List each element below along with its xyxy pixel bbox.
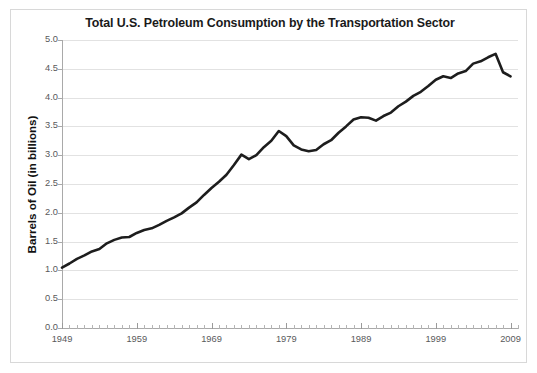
- x-tick-minor: [398, 325, 399, 329]
- x-tick-label: 1979: [266, 334, 306, 344]
- x-tick-label: 1949: [42, 334, 82, 344]
- y-tick-label: 0.5: [32, 293, 58, 303]
- x-tick-minor: [167, 325, 168, 329]
- y-gridline: [62, 242, 518, 243]
- x-tick-minor: [249, 325, 250, 329]
- y-tick-mark: [58, 184, 62, 185]
- y-tick-label: 5.0: [32, 34, 58, 44]
- x-tick-minor: [144, 325, 145, 329]
- x-tick-minor: [189, 325, 190, 329]
- x-tick-minor: [92, 325, 93, 329]
- x-tick-minor: [473, 325, 474, 329]
- y-gridline: [62, 98, 518, 99]
- x-tick-minor: [428, 325, 429, 329]
- x-tick-major: [137, 323, 138, 329]
- x-tick-minor: [174, 325, 175, 329]
- x-tick-minor: [159, 325, 160, 329]
- x-tick-minor: [316, 325, 317, 329]
- y-tick-label: 3.5: [32, 120, 58, 130]
- y-tick-label: 2.5: [32, 178, 58, 188]
- x-tick-minor: [339, 325, 340, 329]
- y-tick-label: 2.0: [32, 207, 58, 217]
- y-tick-label: 0.0: [32, 322, 58, 332]
- y-tick-label: 1.5: [32, 236, 58, 246]
- x-tick-minor: [413, 325, 414, 329]
- x-tick-minor: [488, 325, 489, 329]
- x-tick-major: [511, 323, 512, 329]
- x-tick-minor: [466, 325, 467, 329]
- x-tick-minor: [129, 325, 130, 329]
- y-gridline: [62, 184, 518, 185]
- y-tick-mark: [58, 69, 62, 70]
- y-tick-mark: [58, 242, 62, 243]
- x-tick-minor: [383, 325, 384, 329]
- x-tick-minor: [368, 325, 369, 329]
- x-tick-minor: [69, 325, 70, 329]
- y-axis-tick-labels: 0.00.51.01.52.02.53.03.54.04.55.0: [30, 0, 58, 373]
- x-tick-minor: [309, 325, 310, 329]
- x-tick-minor: [458, 325, 459, 329]
- x-tick-label: 1989: [341, 334, 381, 344]
- y-gridline: [62, 69, 518, 70]
- x-tick-label: 1999: [416, 334, 456, 344]
- x-tick-minor: [107, 325, 108, 329]
- y-tick-mark: [58, 270, 62, 271]
- x-tick-minor: [182, 325, 183, 329]
- y-tick-label: 4.0: [32, 92, 58, 102]
- y-tick-mark: [58, 40, 62, 41]
- x-tick-major: [212, 323, 213, 329]
- y-tick-mark: [58, 155, 62, 156]
- y-tick-mark: [58, 299, 62, 300]
- y-tick-mark: [58, 126, 62, 127]
- x-tick-minor: [451, 325, 452, 329]
- x-tick-minor: [99, 325, 100, 329]
- x-tick-minor: [324, 325, 325, 329]
- y-gridline: [62, 40, 518, 41]
- x-tick-minor: [376, 325, 377, 329]
- x-tick-minor: [204, 325, 205, 329]
- x-tick-major: [436, 323, 437, 329]
- x-tick-minor: [354, 325, 355, 329]
- x-tick-minor: [503, 325, 504, 329]
- x-tick-minor: [331, 325, 332, 329]
- x-tick-minor: [443, 325, 444, 329]
- x-tick-minor: [152, 325, 153, 329]
- y-gridline: [62, 126, 518, 127]
- chart-figure: Total U.S. Petroleum Consumption by the …: [0, 0, 537, 373]
- x-tick-minor: [234, 325, 235, 329]
- x-tick-minor: [301, 325, 302, 329]
- y-gridline: [62, 270, 518, 271]
- x-tick-label: 1959: [117, 334, 157, 344]
- x-tick-label: 1969: [192, 334, 232, 344]
- x-tick-minor: [77, 325, 78, 329]
- x-tick-minor: [219, 325, 220, 329]
- x-tick-minor: [84, 325, 85, 329]
- x-tick-minor: [406, 325, 407, 329]
- x-tick-minor: [271, 325, 272, 329]
- y-gridline: [62, 213, 518, 214]
- x-tick-minor: [421, 325, 422, 329]
- y-tick-label: 4.5: [32, 63, 58, 73]
- y-gridline: [62, 299, 518, 300]
- y-tick-mark: [58, 328, 62, 329]
- x-tick-minor: [279, 325, 280, 329]
- y-axis-line: [62, 40, 63, 329]
- x-tick-minor: [391, 325, 392, 329]
- y-tick-label: 1.0: [32, 264, 58, 274]
- y-tick-mark: [58, 213, 62, 214]
- y-gridline: [62, 155, 518, 156]
- y-tick-mark: [58, 98, 62, 99]
- x-tick-major: [286, 323, 287, 329]
- x-tick-major: [62, 323, 63, 329]
- x-tick-minor: [294, 325, 295, 329]
- x-tick-minor: [518, 325, 519, 329]
- x-tick-minor: [226, 325, 227, 329]
- x-tick-minor: [122, 325, 123, 329]
- x-tick-minor: [346, 325, 347, 329]
- x-tick-label: 2009: [491, 334, 531, 344]
- x-tick-minor: [241, 325, 242, 329]
- x-tick-major: [361, 323, 362, 329]
- y-tick-label: 3.0: [32, 149, 58, 159]
- chart-title: Total U.S. Petroleum Consumption by the …: [30, 16, 510, 30]
- x-tick-minor: [114, 325, 115, 329]
